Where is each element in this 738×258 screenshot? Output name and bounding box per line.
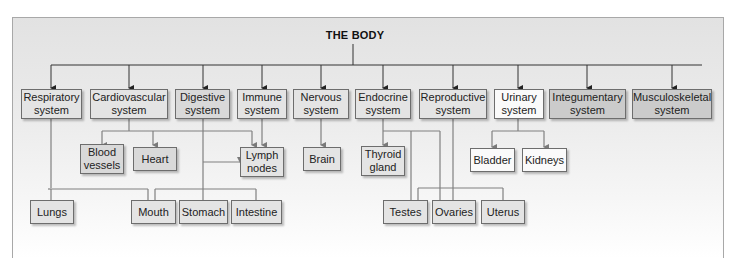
node-heart: Heart bbox=[133, 147, 177, 171]
node-testes: Testes bbox=[383, 200, 428, 224]
node-immune-system: Immune system bbox=[237, 89, 287, 119]
node-reproductive-system: Reproductive system bbox=[419, 89, 487, 119]
node-integumentary-system: Integumentary system bbox=[549, 89, 626, 119]
node-endocrine-system: Endocrine system bbox=[355, 89, 411, 119]
node-stomach: Stomach bbox=[179, 200, 228, 224]
node-kidneys: Kidneys bbox=[522, 148, 567, 172]
node-cardiovascular-system: Cardiovascular system bbox=[90, 89, 168, 119]
node-urinary-system: Urinary system bbox=[494, 89, 544, 119]
node-blood-vessels: Blood vessels bbox=[80, 144, 124, 174]
node-ovaries: Ovaries bbox=[432, 200, 476, 224]
node-thyroid-gland: Thyroid gland bbox=[361, 146, 405, 176]
node-lymph-nodes: Lymph nodes bbox=[240, 147, 284, 177]
diagram-title: THE BODY bbox=[300, 29, 410, 41]
node-digestive-system: Digestive system bbox=[175, 89, 230, 119]
node-uterus: Uterus bbox=[481, 200, 525, 224]
node-lungs: Lungs bbox=[30, 200, 74, 224]
node-nervous-system: Nervous system bbox=[293, 89, 349, 119]
node-bladder: Bladder bbox=[470, 148, 515, 172]
node-respiratory-system: Respiratory system bbox=[21, 89, 82, 119]
node-mouth: Mouth bbox=[131, 200, 176, 224]
node-brain: Brain bbox=[303, 147, 341, 171]
node-musculoskeletal-system: Musculoskeletal system bbox=[632, 89, 712, 119]
node-intestine: Intestine bbox=[231, 200, 282, 224]
